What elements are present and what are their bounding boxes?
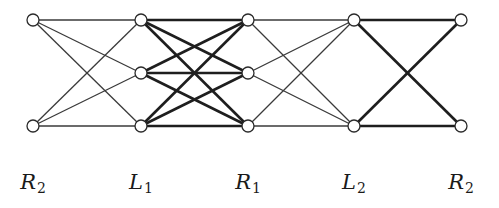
label-subscript: 1	[252, 180, 261, 196]
node-c2-mid	[242, 67, 254, 79]
column-label-r2-left: R2	[3, 170, 63, 196]
node-c2-bot	[242, 120, 254, 132]
label-main: L	[129, 170, 143, 194]
edge-c0-bot-c1-mid	[33, 73, 141, 126]
label-subscript: 2	[465, 180, 474, 196]
label-main: R	[448, 170, 464, 194]
node-group	[27, 14, 467, 132]
column-label-l2: L2	[324, 170, 384, 196]
edge-c2-mid-c3-top	[248, 20, 354, 73]
label-subscript: 1	[144, 180, 153, 196]
node-c3-top	[348, 14, 360, 26]
label-main: R	[20, 170, 36, 194]
node-c2-top	[242, 14, 254, 26]
node-c1-top	[135, 14, 147, 26]
node-c0-bot	[27, 120, 39, 132]
label-main: L	[342, 170, 356, 194]
label-subscript: 2	[37, 180, 46, 196]
edge-c2-mid-c3-bot	[248, 73, 354, 126]
node-c4-top	[455, 14, 467, 26]
label-subscript: 2	[357, 180, 366, 196]
column-label-r1: R1	[218, 170, 278, 196]
label-main: R	[235, 170, 251, 194]
node-c0-top	[27, 14, 39, 26]
column-label-r2-right: R2	[431, 170, 491, 196]
node-c4-bot	[455, 120, 467, 132]
column-label-l1: L1	[111, 170, 171, 196]
edge-c0-top-c1-mid	[33, 20, 141, 73]
node-c1-bot	[135, 120, 147, 132]
node-c1-mid	[135, 67, 147, 79]
node-c3-bot	[348, 120, 360, 132]
